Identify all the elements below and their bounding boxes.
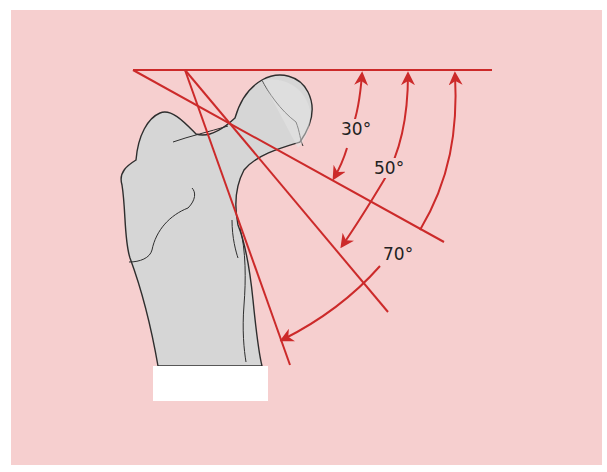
arc-30b <box>334 148 347 178</box>
label-box <box>153 366 268 401</box>
angle-label-30: 30° <box>339 119 373 139</box>
femur-bone <box>121 75 312 366</box>
angle-label-70: 70° <box>381 244 415 264</box>
arc-70 <box>420 74 456 230</box>
femur-diagram <box>0 0 607 472</box>
arc-70b <box>282 266 380 340</box>
angle-label-50: 50° <box>372 158 406 178</box>
